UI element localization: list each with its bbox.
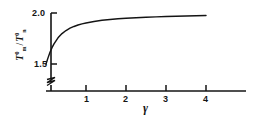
y-axis-label-denominator-sup: 0 [14,33,20,36]
x-axis-label: γ [143,102,148,114]
x-tick-label-3: 3 [163,95,168,104]
y-axis-break-icon [47,78,55,86]
y-axis-label-denominator-base: T [14,36,25,42]
y-axis-label: T0m/T0n [6,18,34,72]
data-curve [46,16,206,64]
y-tick-label-2-0: 2.0 [32,9,45,18]
y-axis-label-denominator-sub: n [21,29,27,32]
y-axis-label-numerator-sub: m [21,47,27,52]
y-axis-label-text: T0m/T0n [15,29,25,60]
x-tick-label-2: 2 [123,95,128,104]
y-axis-label-numerator-base: T [14,55,25,61]
y-axis-label-numerator-sup: 0 [14,52,20,55]
figure-canvas: 2.0 1.5 1 2 3 4 T0m/T0n γ [0,0,254,122]
y-axis-label-separator: / [14,42,25,47]
x-tick-label-1: 1 [84,95,89,104]
x-tick-label-4: 4 [203,95,208,104]
y-tick-label-1-5: 1.5 [34,60,47,69]
